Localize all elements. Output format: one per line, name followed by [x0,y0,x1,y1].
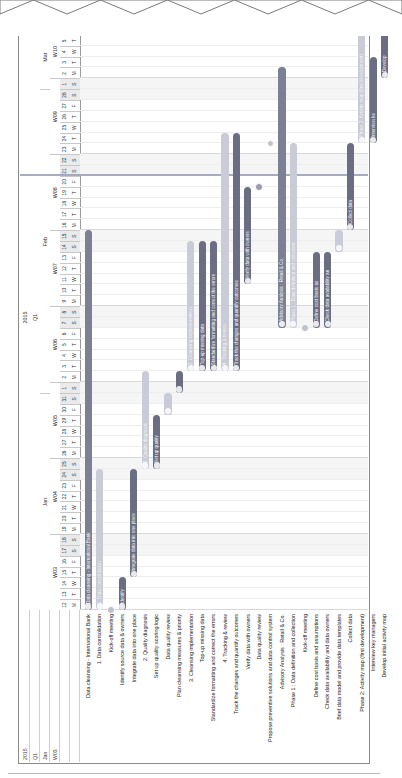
task-bar[interactable]: Standardize formatting and correct the e… [210,241,217,371]
task-label[interactable]: Kick-off meeting [106,614,117,653]
axis-cell: F [70,176,80,187]
axis-cell: 24 [60,469,70,480]
axis-cell: 20 [60,176,70,187]
task-label[interactable]: Check data availability and data owners [322,614,333,709]
task-label[interactable]: Plan cleansing measures & priority [174,614,185,697]
summary-bar[interactable]: Phase 1 : Data definition and collection [290,143,297,327]
milestone-marker[interactable] [255,183,263,191]
axis-cell: 13 [60,252,70,263]
task-label[interactable]: Standardize formatting and correct the e… [208,614,219,721]
task-bar[interactable]: Verify data with owners [244,187,251,285]
task-bar[interactable]: Collect data [347,143,354,230]
axis-cell: S [70,306,80,317]
axis-cell: 8 [60,306,70,317]
axis-cell: S [70,241,80,252]
task-label[interactable]: Advisory Analysis : Retail & Co. [277,614,288,689]
axis-cell: M [70,523,80,534]
task-label[interactable]: Track the changes and quantify outcomes [231,614,242,714]
gantt-chart-page: 2015 Q1 Jan W03 2015 Q1 JanFebMar W03W04… [0,0,402,778]
axis-cell: S [70,469,80,480]
axis-band-day-number: 1213141516171819202122232425262728293031… [60,24,70,610]
axis-cell: 1 [60,78,70,89]
axis-cell: 3 [60,360,70,371]
task-bar[interactable]: Identify [119,577,126,610]
axis-cell: 16 [60,556,70,567]
task-label[interactable]: 2. Quality diagnosis [140,614,151,661]
gridline [80,500,368,501]
axis-cell: F [70,328,80,339]
bar-label: Standardize formatting and correct the e… [210,274,217,371]
axis-cell: 4 [60,350,70,361]
task-label-column: Data cleansing - International Bank1. Da… [20,610,368,762]
task-bar[interactable] [176,371,183,393]
task-bar[interactable] [164,393,171,415]
axis-cell: 17 [60,209,70,220]
task-bar[interactable]: Integrate data into one place [130,469,137,578]
axis-cell: T [70,567,80,578]
axis-cell: T [70,415,80,426]
axis-cell: M [70,295,80,306]
task-label[interactable]: Identify source data & owners [117,614,128,685]
task-bar[interactable]: Interview ke [370,57,377,144]
gridline [80,435,368,436]
axis-cell: T [70,187,80,198]
task-label[interactable]: Data cleansing - International Bank [83,614,94,698]
summary-bar[interactable]: 2. Quality diagnosis [142,371,149,469]
task-bar[interactable]: Top-up missing data [199,241,206,371]
axis-cell: W [70,350,80,361]
gridline [80,533,368,534]
gridline [80,522,368,523]
task-bar[interactable]: Define cost basis as [313,252,320,328]
task-label[interactable]: Phase 2: Activity map (first development… [357,614,368,712]
bar-label: Phase 1 : Data definition and collection [290,242,297,327]
milestone-marker[interactable] [301,324,309,332]
axis-cell: 15 [60,567,70,578]
axis-cell: 26 [60,111,70,122]
summary-bar[interactable]: Advisory Analysis : Retail & Co. [278,67,285,327]
axis-cell: W07 [50,230,60,306]
task-label[interactable]: 1. Data consolidation [94,614,105,664]
task-label[interactable]: Set up quality scoring logic [151,614,162,678]
task-label[interactable]: Define cost basis and assumptions [311,614,322,697]
task-label[interactable]: Collect data [345,614,356,642]
bar-start-cap-icon [176,386,182,392]
task-label[interactable]: Top-up missing data [197,614,208,662]
task-label[interactable]: Verify data with owners [243,614,254,669]
task-label[interactable]: 4. Tracking & review [220,614,231,663]
milestone-marker[interactable] [267,140,275,148]
axis-cell: F [70,100,80,111]
task-label[interactable]: Kick-off meeting [300,614,311,653]
axis-cell: Jan [40,393,50,610]
axis-band-quarter: Q1 [30,24,40,610]
axis-cell: S [70,89,80,100]
task-label[interactable]: 3. Cleansing implementation [186,614,197,682]
torn-paper-edge [0,0,402,36]
task-label[interactable]: Integrate data into one place [129,614,140,682]
task-bar[interactable]: Track the changes and quantify outcomes [233,133,240,372]
task-label[interactable]: Interview key managers [368,614,379,671]
summary-bar[interactable]: 3. Cleansing implementation [187,241,194,371]
gridline [80,457,368,458]
gridline [80,511,368,512]
axis-band-day-of-week: MTWTFSSMTWTFSSMTWTFSSMTWTFSSMTWTFSSMTWTF… [70,24,80,610]
task-label[interactable]: Develop initial activity map [379,614,390,678]
summary-bar[interactable]: 4. Tracking & review [221,133,228,372]
task-label[interactable]: Brief data model and provide data templa… [334,614,345,720]
bar-label: Check data availability an [324,270,331,328]
task-bar[interactable]: Check data availability an [324,252,331,328]
summary-bar[interactable]: Phase 2: Activity map (first development… [358,24,365,143]
axis-cell: W [70,274,80,285]
task-label[interactable]: Data quality review [254,614,265,660]
task-bar[interactable] [335,230,342,252]
task-label[interactable]: Phase 1 : Data definition and collection [288,614,299,707]
task-bar[interactable]: Set up quality [153,415,160,469]
bar-start-cap-icon [359,137,365,143]
summary-bar[interactable]: 1. Data consolidation [96,469,103,610]
bar-label: Verify data with owners [244,231,251,284]
axis-cell: M [70,219,80,230]
axis-cell: 28 [60,89,70,100]
task-label[interactable]: Propose preventive solutions and data co… [265,614,276,742]
task-label[interactable]: Data quality review [163,614,174,660]
timeline: 2015 Q1 JanFebMar W03W04W05W06W07W08W09W… [20,24,368,610]
summary-bar[interactable]: Data cleansing - International Bank [85,230,92,610]
